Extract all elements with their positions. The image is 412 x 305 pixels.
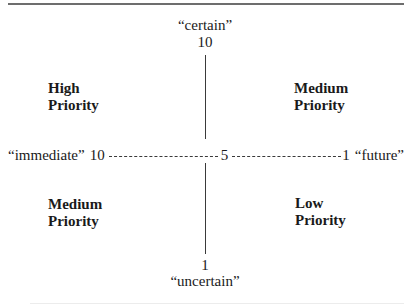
quadrant-bottom-right-low-priority: Low Priority — [295, 195, 346, 229]
horizontal-axis-right-label: “future” — [355, 147, 404, 163]
quadrant-label-line2: Priority — [48, 213, 102, 230]
top-divider-rule — [8, 3, 404, 5]
quadrant-label-line2: Priority — [295, 212, 346, 229]
horizontal-axis-left-dashed-line — [109, 156, 218, 157]
horizontal-axis-center-value: 5 — [221, 147, 229, 163]
vertical-axis-bottom-label: “uncertain” — [165, 273, 245, 289]
quadrant-label-line2: Priority — [294, 97, 348, 114]
quadrant-top-right-medium-priority: Medium Priority — [294, 80, 348, 114]
quadrant-top-left-high-priority: High Priority — [48, 80, 99, 114]
vertical-axis-lower-line — [205, 163, 206, 254]
quadrant-label-line1: Medium — [294, 80, 348, 97]
vertical-axis-top-value: 10 — [165, 34, 245, 50]
horizontal-axis-left-value: 10 — [90, 147, 105, 163]
quadrant-label-line2: Priority — [48, 97, 99, 114]
vertical-axis-bottom-value: 1 — [165, 257, 245, 273]
quadrant-bottom-left-medium-priority: Medium Priority — [48, 196, 102, 230]
horizontal-axis-right-dashed-line — [232, 156, 341, 157]
quadrant-label-line1: High — [48, 80, 99, 97]
quadrant-label-line1: Low — [295, 195, 346, 212]
horizontal-axis: “immediate” 10 5 1 “future” — [8, 146, 404, 164]
horizontal-axis-right-value: 1 — [342, 147, 350, 163]
vertical-axis-upper-line — [205, 55, 206, 139]
quadrant-label-line1: Medium — [48, 196, 102, 213]
vertical-axis-top-label: “certain” — [165, 17, 245, 33]
horizontal-axis-left-label: “immediate” — [8, 147, 85, 163]
bottom-divider-rule — [30, 303, 404, 304]
